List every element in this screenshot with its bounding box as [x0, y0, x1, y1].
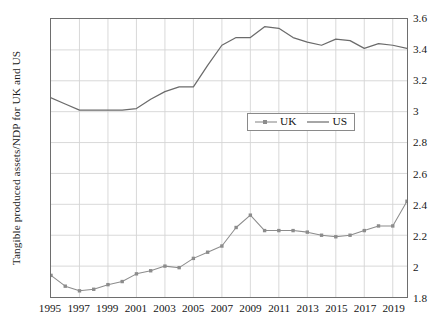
x-axis-ticks: 1995199719992001200320052007200920112013… [0, 0, 447, 335]
x-tick-label: 1997 [67, 302, 89, 314]
legend-line-icon [307, 117, 329, 127]
x-tick-label: 2009 [239, 302, 261, 314]
x-tick-label: 2015 [325, 302, 347, 314]
legend-marker-line-icon [255, 117, 277, 127]
legend-entry-us: US [307, 116, 347, 127]
legend-label-uk: UK [280, 116, 296, 127]
x-tick-label: 2019 [382, 302, 404, 314]
chart-container: Tangible produced assets/NDP for UK and … [0, 0, 447, 335]
x-tick-label: 2011 [268, 302, 290, 314]
x-tick-label: 1999 [96, 302, 118, 314]
x-tick-label: 2013 [297, 302, 319, 314]
x-tick-label: 2017 [354, 302, 376, 314]
x-tick-label: 1995 [39, 302, 61, 314]
x-tick-label: 2005 [182, 302, 204, 314]
x-tick-label: 2007 [211, 302, 233, 314]
legend-entry-uk: UK [255, 116, 296, 127]
x-tick-label: 2003 [153, 302, 175, 314]
legend-label-us: US [332, 116, 347, 127]
x-tick-label: 2001 [125, 302, 147, 314]
chart-legend: UK US [247, 113, 355, 131]
